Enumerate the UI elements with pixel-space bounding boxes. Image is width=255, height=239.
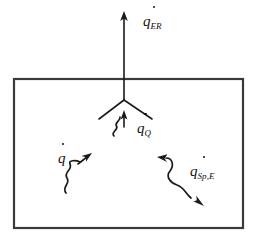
heat-flux-diagram: qER qQ q qSp,E [0,0,255,239]
control-volume-box [14,79,243,228]
symbol-q: q [58,151,66,166]
label-emitted-radiation: qER [143,13,162,31]
label-specific-energy: qSp,E [190,163,215,181]
subscript-er: ER [151,22,162,31]
subscript-spe: Sp,E [198,172,215,181]
label-heat-flux: q [58,150,66,166]
diagram-canvas [0,0,255,239]
symbol-q-q: q [137,121,145,136]
symbol-q-spe: q [190,164,198,179]
symbol-q-er: q [143,14,151,29]
subscript-q: Q [145,129,152,138]
label-internal-heat: qQ [137,120,151,138]
